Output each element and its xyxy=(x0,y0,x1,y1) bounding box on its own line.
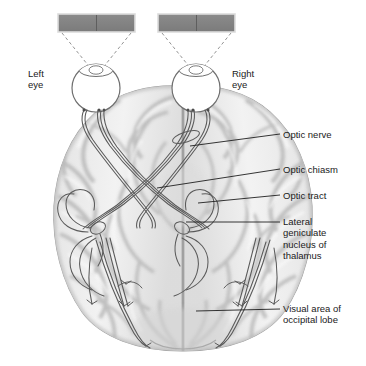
label-optic-chiasm: Optic chiasm xyxy=(283,164,338,175)
label-left-eye: Left eye xyxy=(28,68,44,91)
label-optic-nerve: Optic nerve xyxy=(283,129,332,140)
right-eye-globe xyxy=(172,64,220,113)
label-right-eye: Right eye xyxy=(232,68,254,91)
left-visual-field-bar xyxy=(58,14,135,32)
label-visual-area-occipital-lobe: Visual area of occipital lobe xyxy=(283,303,341,326)
label-lateral-geniculate-nucleus: Lateral geniculate nucleus of thalamus xyxy=(283,216,326,262)
optic-pathway-figure: Left eye Right eye Optic nerve Optic chi… xyxy=(0,0,366,366)
brain xyxy=(50,82,316,354)
left-eye-globe xyxy=(72,64,120,113)
label-optic-tract: Optic tract xyxy=(283,190,326,201)
right-visual-field-bar xyxy=(158,14,235,32)
